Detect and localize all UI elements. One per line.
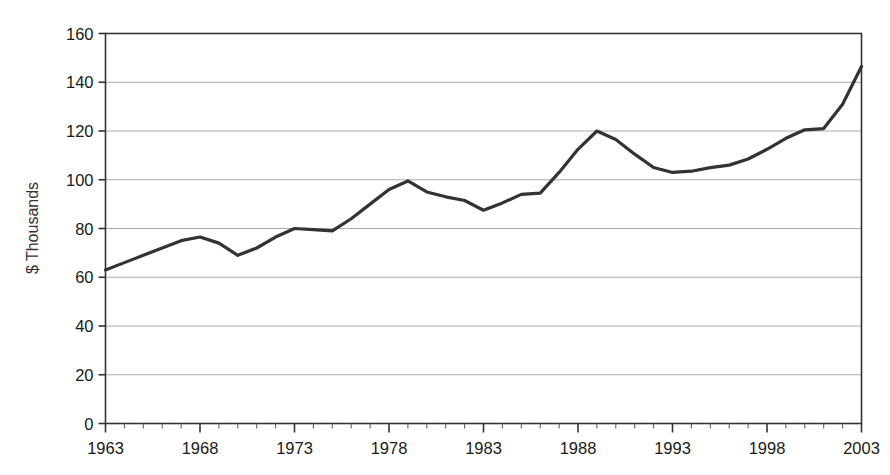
x-tick-label: 1968 — [182, 439, 219, 457]
y-axis-title: $ Thousands — [24, 182, 41, 274]
x-tick-label: 1963 — [87, 439, 124, 457]
x-tick-label: 1983 — [465, 439, 502, 457]
x-tick-label: 1978 — [371, 439, 408, 457]
y-tick-label: 0 — [84, 415, 93, 433]
y-tick-label: 80 — [75, 220, 93, 238]
x-tick-label: 1993 — [654, 439, 691, 457]
x-tick-label: 2003 — [843, 439, 880, 457]
x-tick-label: 1973 — [276, 439, 313, 457]
y-tick-label: 120 — [66, 122, 94, 140]
x-tick-label: 1998 — [749, 439, 786, 457]
x-axis-tick-labels: 196319681973197819831988199319982003 — [87, 439, 880, 457]
y-tick-label: 100 — [66, 171, 94, 189]
line-chart: 020406080100120140160 196319681973197819… — [0, 0, 890, 475]
y-tick-label: 20 — [75, 366, 93, 384]
chart-container: 020406080100120140160 196319681973197819… — [0, 0, 890, 475]
y-axis-title-group: $ Thousands — [24, 182, 41, 274]
y-tick-label: 60 — [75, 268, 93, 286]
x-tick-label: 1988 — [560, 439, 597, 457]
y-tick-label: 140 — [66, 73, 94, 91]
y-tick-label: 40 — [75, 317, 93, 335]
y-tick-label: 160 — [66, 25, 94, 43]
plot-background — [0, 0, 890, 475]
